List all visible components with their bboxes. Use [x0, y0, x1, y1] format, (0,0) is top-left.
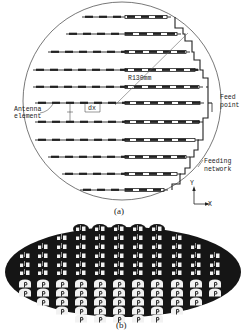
large-patch-element: [113, 289, 125, 297]
antenna-element: [106, 69, 114, 71]
large-patch-element: [19, 289, 31, 297]
antenna-element: [79, 51, 87, 53]
large-patch-element: [56, 289, 68, 297]
large-patch-element: [37, 280, 49, 288]
antenna-element: [83, 33, 91, 35]
antenna-element: [122, 121, 130, 123]
antenna-element: [113, 16, 121, 18]
antenna-element: [149, 156, 157, 158]
antenna-element: [122, 102, 130, 104]
large-patch-element: [19, 280, 31, 288]
antenna-element: [65, 173, 73, 175]
caption-a: (a): [114, 206, 124, 216]
antenna-element: [120, 69, 128, 71]
antenna-row: [66, 33, 177, 36]
antenna-element: [153, 33, 161, 35]
antenna-element: [36, 86, 44, 88]
large-patch-element: [37, 289, 49, 297]
antenna-element: [107, 156, 115, 158]
antenna-element: [66, 102, 74, 104]
antenna-element: [93, 51, 101, 53]
antenna-element: [139, 33, 147, 35]
antenna-element: [148, 86, 156, 88]
caption-b: (b): [116, 320, 127, 330]
antenna-element: [135, 51, 143, 53]
large-patch-element: [113, 298, 125, 306]
antenna-element: [150, 121, 158, 123]
antenna-element: [121, 173, 129, 175]
antenna-element-label-line1: Antenna: [14, 106, 41, 113]
antenna-element: [97, 189, 105, 191]
antenna-element: [79, 173, 87, 175]
antenna-element: [176, 86, 184, 88]
antenna-element: [92, 69, 100, 71]
antenna-element: [176, 69, 184, 71]
antenna-element: [107, 173, 115, 175]
antenna-element: [148, 69, 156, 71]
large-patch-element: [94, 315, 106, 323]
antenna-element: [178, 139, 186, 141]
large-patch-element: [171, 298, 183, 306]
feeding-network-label-line1: Feeding: [204, 158, 231, 165]
large-patch-element: [75, 307, 87, 315]
y-axis-label: Y: [190, 180, 194, 187]
large-patch-element: [94, 298, 106, 306]
antenna-row: [33, 69, 198, 72]
large-patch-element: [132, 307, 144, 315]
antenna-element: [108, 121, 116, 123]
antenna-element: [167, 33, 175, 35]
antenna-row: [48, 51, 186, 54]
large-patch-element: [75, 315, 87, 323]
antenna-element: [121, 51, 129, 53]
antenna-element: [135, 173, 143, 175]
antenna-element: [141, 16, 149, 18]
x-axis-label: X: [208, 201, 212, 208]
antenna-element: [153, 189, 161, 191]
large-patch-element: [151, 298, 163, 306]
large-patch-element: [132, 315, 144, 323]
antenna-element: [36, 69, 44, 71]
antenna-element: [162, 69, 170, 71]
antenna-element: [97, 33, 105, 35]
antenna-element: [136, 121, 144, 123]
antenna-element: [162, 86, 170, 88]
antenna-element: [177, 51, 185, 53]
antenna-element: [38, 139, 46, 141]
antenna-element: [120, 86, 128, 88]
dx-label: dx: [88, 105, 96, 112]
antenna-element: [134, 69, 142, 71]
antenna-element: [85, 16, 93, 18]
antenna-element: [163, 156, 171, 158]
antenna-element: [134, 86, 142, 88]
feed-point-label-line1: Feed: [220, 94, 236, 101]
antenna-row: [33, 86, 199, 89]
large-patch-element: [190, 289, 202, 297]
large-patch-element: [132, 298, 144, 306]
antenna-element: [139, 189, 147, 191]
antenna-element: [66, 121, 74, 123]
large-patch-element: [75, 298, 87, 306]
antenna-element: [125, 33, 133, 35]
antenna-element: [65, 51, 73, 53]
large-patch-element: [113, 280, 125, 288]
antenna-element: [111, 189, 119, 191]
large-patch-element: [151, 315, 163, 323]
antenna-row: [62, 173, 177, 176]
antenna-element: [80, 102, 88, 104]
antenna-element: [80, 121, 88, 123]
antenna-element: [99, 16, 107, 18]
large-patch-element: [113, 307, 125, 315]
feeding-network-label-line2: network: [204, 166, 231, 173]
antenna-element: [92, 86, 100, 88]
antenna-element: [50, 86, 58, 88]
antenna-element: [108, 139, 116, 141]
antenna-element: [94, 139, 102, 141]
antenna-element: [178, 102, 186, 104]
antenna-row: [82, 16, 167, 19]
antenna-element: [155, 16, 163, 18]
antenna-element: [83, 189, 91, 191]
antenna-element: [52, 139, 60, 141]
large-patch-element: [56, 298, 68, 306]
dy-marker: [67, 104, 73, 121]
antenna-element: [79, 156, 87, 158]
